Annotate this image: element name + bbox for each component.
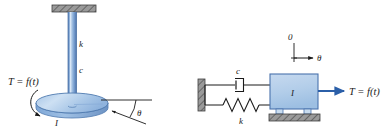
left-label-inertia: I (54, 118, 59, 128)
vertical-shaft (68, 12, 77, 106)
left-label-torque: T = f(t) (8, 76, 39, 88)
hatched-wall-icon (198, 79, 205, 111)
damper-symbol (205, 79, 270, 92)
right-label-origin: 0 (288, 32, 293, 42)
right-diagram-group: c k I (198, 32, 380, 126)
left-label-angle: θ (137, 108, 142, 118)
figure-canvas: k c I T = f(t) θ (0, 0, 381, 140)
origin-tick-mark (291, 43, 297, 62)
right-label-damping: c (236, 66, 240, 76)
left-label-stiffness: k (79, 39, 84, 49)
spring-symbol (205, 99, 270, 112)
right-label-angle: θ (317, 53, 322, 63)
mechanical-system-figure: k c I T = f(t) θ (0, 0, 381, 140)
hatched-support-icon (52, 5, 96, 12)
hatched-ground-icon (269, 114, 320, 121)
left-label-damping: c (79, 65, 83, 75)
right-label-stiffness: k (239, 116, 244, 126)
left-diagram-group: k c I T = f(t) θ (8, 5, 152, 128)
right-label-torque: T = f(t) (349, 86, 380, 98)
rotating-disk (36, 93, 108, 118)
roller-supports (276, 109, 311, 114)
inertia-block (270, 74, 318, 109)
